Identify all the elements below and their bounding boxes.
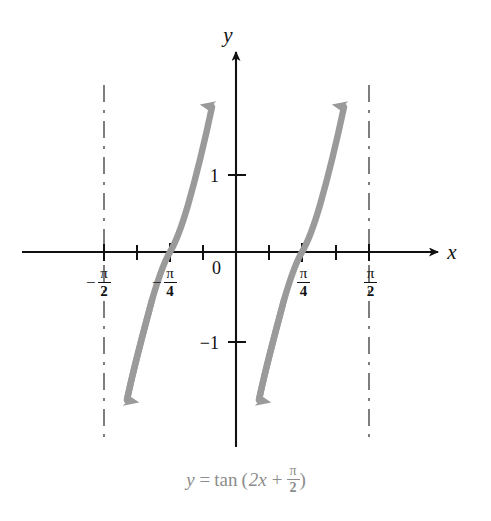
fraction-numerator: π bbox=[98, 266, 110, 282]
fraction: π 4 bbox=[297, 266, 310, 299]
caption-plus-sign: + bbox=[268, 470, 287, 489]
fraction-numerator: π bbox=[365, 266, 377, 282]
x-tick-label-neg-pi-over-2: − π 2 bbox=[86, 266, 111, 299]
fraction: π 2 bbox=[364, 266, 377, 299]
fraction-numerator: π bbox=[164, 266, 176, 282]
fraction-denominator: 2 bbox=[365, 283, 377, 299]
minus-sign: − bbox=[152, 274, 162, 291]
figure-caption: y = tan ( 2x + π 2 ) bbox=[0, 464, 491, 495]
x-tick-label-pi-over-4: π 4 bbox=[295, 266, 310, 299]
caption-fraction: π 2 bbox=[287, 464, 300, 495]
x-tick-label-pi-over-2: π 2 bbox=[362, 266, 377, 299]
fraction-denominator: 4 bbox=[164, 283, 176, 299]
y-tick-label-one: 1 bbox=[210, 166, 219, 186]
caption-open-paren: ( bbox=[238, 470, 248, 489]
y-axis-label: y bbox=[221, 23, 233, 47]
fraction: π 4 bbox=[164, 266, 177, 299]
tangent-curve-right-branch-lower-arrow bbox=[259, 300, 284, 400]
x-tick-label-neg-pi-over-4: − π 4 bbox=[152, 266, 177, 299]
caption-close-paren: ) bbox=[300, 470, 306, 489]
fraction-numerator: π bbox=[298, 266, 310, 282]
origin-label: 0 bbox=[212, 258, 221, 279]
fraction-denominator: 4 bbox=[298, 283, 310, 299]
fraction-numerator: π bbox=[287, 464, 298, 479]
fraction: π 2 bbox=[98, 266, 111, 299]
x-axis-label: x bbox=[446, 240, 457, 264]
plot-canvas: y x 1 −1 bbox=[0, 0, 491, 521]
tangent-function-graph-figure: y x 1 −1 0 − π 2 − π 4 π 4 π bbox=[0, 0, 491, 521]
caption-argument-coefficient: 2x bbox=[248, 470, 268, 489]
caption-equals-sign: = bbox=[196, 470, 215, 489]
minus-sign: − bbox=[86, 274, 96, 291]
fraction-denominator: 2 bbox=[98, 283, 110, 299]
fraction-denominator: 2 bbox=[288, 480, 299, 495]
tangent-curve-left-branch-lower-arrow bbox=[127, 300, 152, 400]
y-tick-label-negative-one: −1 bbox=[200, 333, 219, 353]
caption-y-symbol: y bbox=[185, 470, 195, 489]
caption-expression: y = tan ( 2x + π 2 ) bbox=[185, 464, 306, 495]
caption-function-name: tan bbox=[214, 470, 237, 489]
